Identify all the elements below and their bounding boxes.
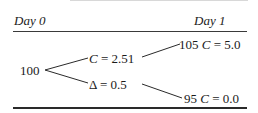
branch-root-down bbox=[45, 70, 88, 83]
delta-symbol: Δ bbox=[89, 77, 97, 92]
branch-to-down-leaf bbox=[142, 84, 182, 98]
call-value-label: C = 2.51 bbox=[89, 52, 134, 65]
down-leaf-symbol: C bbox=[200, 91, 209, 106]
down-leaf-value: = 0.0 bbox=[209, 91, 239, 106]
up-leaf-price: 105 bbox=[179, 37, 202, 52]
root-price: 100 bbox=[20, 64, 40, 77]
delta-value: = 0.5 bbox=[97, 77, 127, 92]
down-leaf-label: 95 C = 0.0 bbox=[184, 92, 239, 105]
call-value: = 2.51 bbox=[98, 51, 135, 66]
branch-root-up bbox=[45, 58, 88, 70]
down-leaf-price: 95 bbox=[184, 91, 200, 106]
delta-value-label: Δ = 0.5 bbox=[89, 78, 127, 91]
branch-to-up-leaf bbox=[142, 44, 180, 57]
bottom-rule bbox=[13, 107, 247, 109]
call-symbol: C bbox=[89, 51, 98, 66]
up-leaf-value: = 5.0 bbox=[210, 37, 240, 52]
up-leaf-label: 105 C = 5.0 bbox=[179, 38, 241, 51]
